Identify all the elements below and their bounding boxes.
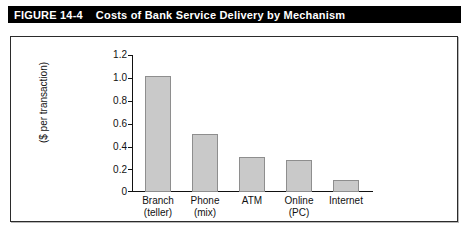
y-tick-label-0: 0 <box>103 187 127 197</box>
bar-online-pc <box>286 160 312 192</box>
x-tick-label-branch-line1: Branch <box>142 195 174 206</box>
y-tick-label-0.4: 0.4 <box>103 142 127 152</box>
y-tick-label-1.2: 1.2 <box>103 50 127 60</box>
y-axis-line <box>132 55 133 192</box>
bar-phone-mix <box>192 134 218 192</box>
chart-panel: ($ per transaction) 1.2 1.0 0.8 0.6 0.4 … <box>10 36 458 222</box>
bar-branch-teller <box>145 76 171 192</box>
y-axis-title: ($ per transaction) <box>38 43 49 163</box>
x-tick-label-online-line1: Online <box>285 195 314 206</box>
bar-internet <box>333 180 359 192</box>
figure-banner: FIGURE 14-4 Costs of Bank Service Delive… <box>8 6 461 23</box>
figure-number: FIGURE 14-4 <box>14 9 83 21</box>
x-tick-label-phone-line1: Phone <box>191 195 220 206</box>
y-tick-label-0.2: 0.2 <box>103 165 127 175</box>
x-tick-label-atm-line1: ATM <box>242 195 262 206</box>
x-tick-label-phone-line2: (mix) <box>173 207 237 219</box>
figure-title: Costs of Bank Service Delivery by Mechan… <box>96 9 345 21</box>
y-tick-label-0.6: 0.6 <box>103 119 127 129</box>
bar-chart: ($ per transaction) 1.2 1.0 0.8 0.6 0.4 … <box>11 37 459 223</box>
x-tick-label-internet: Internet <box>314 195 378 207</box>
bar-atm <box>239 157 265 192</box>
x-tick-label-online-line2: (PC) <box>267 207 331 219</box>
y-tick-label-0.8: 0.8 <box>103 96 127 106</box>
y-tick-label-1.0: 1.0 <box>103 73 127 83</box>
x-tick-label-internet-line1: Internet <box>329 195 363 206</box>
